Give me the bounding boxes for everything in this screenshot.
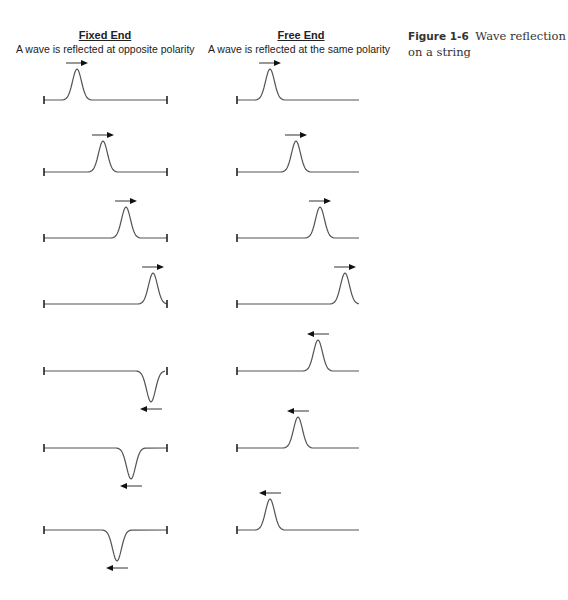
string-wave <box>44 530 167 561</box>
string-wave <box>44 448 167 479</box>
arrowhead-left-icon <box>106 565 113 571</box>
string-wave <box>237 417 359 448</box>
arrowhead-right-icon <box>130 198 137 204</box>
wave-reflection-diagram <box>0 0 568 600</box>
string-wave <box>237 273 359 304</box>
string-wave <box>44 69 167 100</box>
arrowhead-right-icon <box>324 198 331 204</box>
string-wave <box>44 371 165 402</box>
string-wave <box>237 340 359 371</box>
arrowhead-left-icon <box>140 406 147 412</box>
arrowhead-right-icon <box>157 264 164 270</box>
string-wave <box>237 499 359 530</box>
string-wave <box>237 141 359 172</box>
arrowhead-left-icon <box>259 490 266 496</box>
arrowhead-right-icon <box>81 60 88 66</box>
arrowhead-left-icon <box>307 331 314 337</box>
arrowhead-left-icon <box>120 483 127 489</box>
string-wave <box>44 207 167 238</box>
string-wave <box>44 141 167 172</box>
arrowhead-right-icon <box>274 60 281 66</box>
arrowhead-right-icon <box>349 264 356 270</box>
string-wave <box>44 273 167 304</box>
arrowhead-right-icon <box>300 132 307 138</box>
string-wave <box>237 69 359 100</box>
arrowhead-right-icon <box>107 132 114 138</box>
arrowhead-left-icon <box>287 408 294 414</box>
string-wave <box>237 207 359 238</box>
